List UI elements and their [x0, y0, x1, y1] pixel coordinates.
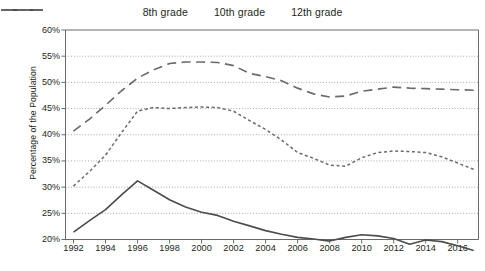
series-line-12th-grade [74, 62, 474, 131]
line-chart: 8th grade 10th grade 12th grade Percenta… [0, 0, 485, 271]
series-line-10th-grade [74, 107, 474, 186]
axis-tickmarks [62, 30, 458, 244]
plot-area [0, 0, 485, 271]
gridlines [66, 56, 479, 239]
series-line-8th-grade [74, 181, 474, 251]
data-series-layer [74, 62, 474, 251]
